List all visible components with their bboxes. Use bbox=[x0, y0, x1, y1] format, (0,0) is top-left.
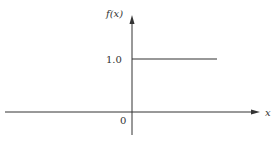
x-axis-arrow-icon bbox=[251, 110, 260, 115]
y-axis-label: f(x) bbox=[105, 8, 123, 19]
y-axis-arrow-icon bbox=[130, 15, 135, 24]
step-function-chart: f(x) 1.0 0 x bbox=[0, 0, 276, 142]
origin-label: 0 bbox=[120, 115, 126, 126]
y-tick-label: 1.0 bbox=[106, 54, 122, 65]
x-axis-label: x bbox=[265, 107, 271, 118]
